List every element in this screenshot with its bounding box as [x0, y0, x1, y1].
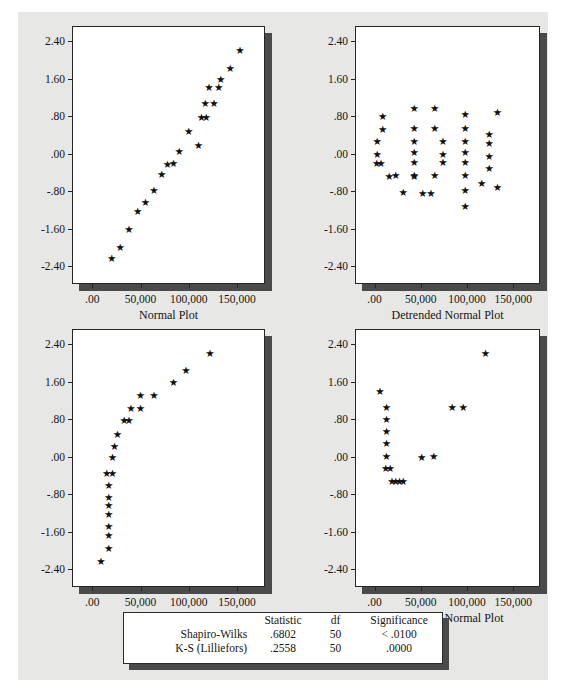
panel-shadow-right	[540, 336, 547, 594]
x-axis-tick	[189, 586, 190, 591]
data-point-marker: ★	[438, 148, 447, 159]
y-axis-tick-label: 2.40	[328, 35, 348, 47]
y-axis-tick	[68, 154, 73, 155]
data-point-marker: ★	[382, 414, 391, 425]
y-axis-tick	[351, 494, 356, 495]
data-point-marker: ★	[429, 450, 438, 461]
df-cell: 50	[315, 641, 356, 655]
data-point-marker: ★	[460, 109, 469, 120]
x-axis-tick	[141, 283, 142, 288]
x-axis-tick	[141, 586, 142, 591]
x-axis-tick-label: 100,000	[170, 596, 207, 608]
data-point-marker: ★	[382, 450, 391, 461]
data-point-marker: ★	[430, 103, 439, 114]
x-axis-tick	[375, 586, 376, 591]
data-point-marker: ★	[104, 480, 113, 491]
y-axis-tick-label: -.80	[330, 488, 348, 500]
data-point-marker: ★	[484, 138, 493, 149]
y-axis-tick-label: .00	[334, 451, 348, 463]
x-axis-tick-label: 150,000	[495, 293, 532, 305]
data-point-marker: ★	[149, 185, 158, 196]
data-point-marker: ★	[373, 148, 382, 159]
x-axis-tick	[421, 283, 422, 288]
data-point-marker: ★	[110, 441, 119, 452]
x-axis-tick	[92, 283, 93, 288]
data-point-marker: ★	[108, 451, 117, 462]
data-point-marker: ★	[378, 124, 387, 135]
y-axis-tick	[68, 191, 73, 192]
data-point-marker: ★	[104, 500, 113, 511]
y-axis-tick	[68, 266, 73, 267]
data-point-marker: ★	[104, 509, 113, 520]
y-axis-tick	[68, 116, 73, 117]
x-axis-tick	[467, 283, 468, 288]
data-point-marker: ★	[133, 206, 142, 217]
x-axis-title: Normal Plot	[139, 308, 198, 323]
data-point-marker: ★	[382, 426, 391, 437]
column-header: Significance	[356, 613, 442, 627]
y-axis-tick-label: 1.60	[45, 73, 65, 85]
x-axis-tick-label: .00	[367, 596, 381, 608]
x-axis-tick-label: 100,000	[170, 293, 207, 305]
y-axis-tick-label: .00	[51, 148, 65, 160]
y-axis-tick	[351, 191, 356, 192]
y-axis-tick	[68, 229, 73, 230]
y-axis-tick	[68, 344, 73, 345]
x-axis-tick	[467, 586, 468, 591]
x-axis-tick-label: .00	[85, 293, 99, 305]
x-axis-tick-label: .00	[85, 596, 99, 608]
data-point-marker: ★	[181, 365, 190, 376]
data-point-marker: ★	[460, 147, 469, 158]
y-axis-tick-label: -1.60	[324, 526, 348, 538]
significance-cell: < .0100	[356, 627, 442, 641]
panel-shadow-bottom	[79, 284, 272, 291]
x-axis-tick	[92, 586, 93, 591]
data-point-marker: ★	[410, 170, 419, 181]
data-point-marker: ★	[116, 241, 125, 252]
data-point-marker: ★	[460, 170, 469, 181]
data-point-marker: ★	[141, 197, 150, 208]
y-axis-tick	[351, 229, 356, 230]
page-canvas: 2.401.60.80.00-.80-1.60-2.40.0050,000100…	[0, 0, 566, 696]
x-axis-tick	[513, 586, 514, 591]
y-axis-tick	[351, 344, 356, 345]
column-header: df	[315, 613, 356, 627]
x-axis-tick-label: 50,000	[405, 293, 437, 305]
figure-sheet: 2.401.60.80.00-.80-1.60-2.40.0050,000100…	[18, 12, 548, 680]
data-point-marker: ★	[373, 136, 382, 147]
y-axis-tick-label: 2.40	[45, 338, 65, 350]
y-axis-tick	[68, 457, 73, 458]
data-point-marker: ★	[426, 187, 435, 198]
data-point-marker: ★	[209, 98, 218, 109]
data-point-marker: ★	[438, 157, 447, 168]
plot-area: 2.401.60.80.00-.80-1.60-2.40.0050,000100…	[73, 330, 264, 586]
significance-cell: .0000	[356, 641, 442, 655]
y-axis-tick-label: -.80	[330, 185, 348, 197]
test-name-cell: Shapiro-Wilks	[124, 627, 251, 641]
data-point-marker: ★	[197, 112, 206, 123]
data-point-marker: ★	[104, 543, 113, 554]
y-axis-tick-label: .00	[51, 451, 65, 463]
x-axis-tick	[421, 586, 422, 591]
column-header	[124, 613, 251, 627]
table-header-row: StatisticdfSignificance	[124, 613, 442, 627]
data-point-marker: ★	[460, 123, 469, 134]
stats-table-box: StatisticdfSignificanceShapiro-Wilks.680…	[123, 612, 443, 664]
data-point-marker: ★	[104, 491, 113, 502]
data-point-marker: ★	[460, 201, 469, 212]
data-point-marker: ★	[378, 111, 387, 122]
x-axis-tick-label: 100,000	[448, 596, 485, 608]
data-point-marker: ★	[391, 476, 400, 487]
y-axis-tick-label: 2.40	[45, 35, 65, 47]
y-axis-tick	[351, 419, 356, 420]
data-point-marker: ★	[201, 112, 210, 123]
data-point-marker: ★	[410, 123, 419, 134]
x-axis-tick-label: 150,000	[218, 596, 255, 608]
x-axis-tick-label: 50,000	[405, 596, 437, 608]
y-axis-tick	[351, 154, 356, 155]
table-row: Shapiro-Wilks.680250< .0100	[124, 627, 442, 641]
data-point-marker: ★	[447, 402, 456, 413]
panel-shadow-right	[265, 33, 272, 291]
data-point-marker: ★	[102, 468, 111, 479]
data-point-marker: ★	[398, 187, 407, 198]
